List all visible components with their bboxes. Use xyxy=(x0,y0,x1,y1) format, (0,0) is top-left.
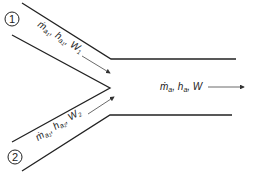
flow-arrow-2 xyxy=(88,97,114,114)
station-1-marker: 1 xyxy=(5,12,19,26)
stream-2-label: ṁa1, ha2, W2 xyxy=(33,106,84,144)
svg-text:2: 2 xyxy=(12,151,18,163)
svg-text:ṁa, ha, W: ṁa, ha, W xyxy=(160,81,204,93)
station-2-marker: 2 xyxy=(8,150,22,164)
diagram-svg: 1 2 ṁa1, ha1, W1 ṁa1, ha2, W2 ṁa, ha, W xyxy=(0,0,256,176)
outlet-label: ṁa, ha, W xyxy=(160,81,204,93)
mixing-diagram: 1 2 ṁa1, ha1, W1 ṁa1, ha2, W2 ṁa, ha, W xyxy=(0,0,256,176)
svg-text:1: 1 xyxy=(9,13,15,25)
svg-text:ṁa1, ha2, W2: ṁa1, ha2, W2 xyxy=(33,106,84,144)
flow-arrow-1 xyxy=(82,56,110,73)
